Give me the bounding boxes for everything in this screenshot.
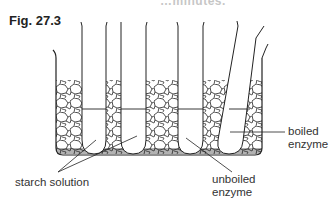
label-boiled-enzyme: boiled enzyme: [288, 125, 335, 151]
label-unboiled-enzyme: unboiled enzyme: [212, 173, 272, 199]
beaker-diagram: [0, 0, 335, 205]
label-unboiled-line2: enzyme: [212, 186, 272, 199]
test-tube-2: [121, 22, 147, 154]
label-boiled-line1: boiled: [288, 125, 335, 138]
test-tube-1: [81, 22, 107, 154]
label-boiled-line2: enzyme: [288, 138, 335, 151]
label-starch-solution: starch solution: [15, 176, 89, 189]
test-tube-3: [177, 22, 204, 154]
label-unboiled-line1: unboiled: [212, 173, 272, 186]
